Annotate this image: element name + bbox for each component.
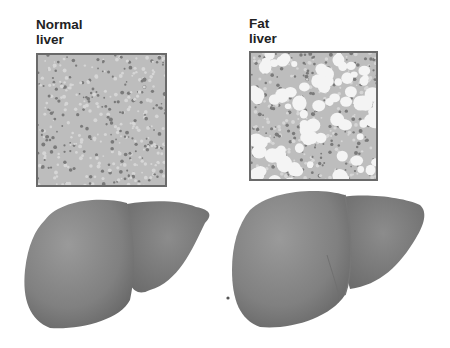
normal-tissue-texture: [38, 55, 167, 187]
fat-liver-label: Fat liver: [249, 16, 277, 46]
normal-tissue-micrograph: [36, 53, 167, 187]
fat-tissue-micrograph: [249, 51, 378, 181]
normal-liver-label: Normal liver: [36, 17, 83, 47]
fat-tissue-texture: [251, 53, 378, 181]
dot-mark: [226, 296, 229, 299]
fat-liver-organ: [232, 191, 424, 328]
normal-liver-organ: [24, 200, 209, 328]
